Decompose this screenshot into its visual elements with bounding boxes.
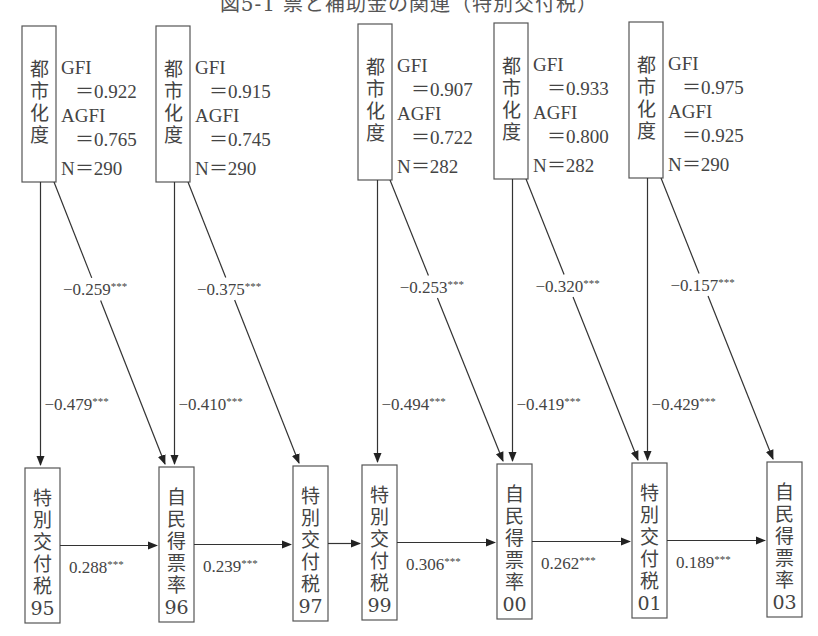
svg-text:＝0.915: ＝0.915: [209, 81, 271, 102]
node-label-char: 化: [637, 98, 656, 120]
node-label-char: 市: [366, 78, 385, 100]
svg-text:付: 付: [370, 550, 389, 572]
outcome-node-96: 自民得票率96: [159, 467, 194, 622]
svg-text:特: 特: [640, 482, 659, 504]
node-label-char: 都: [366, 56, 385, 78]
node-label-char: 度: [502, 121, 521, 143]
svg-text:特: 特: [33, 487, 52, 509]
urbanization-node-4: 都市化度: [494, 23, 528, 179]
node-label-char: 化: [164, 102, 183, 124]
fit-indices-5: GFI＝0.975AGFI＝0.925N＝290: [668, 53, 744, 175]
node-label-char: 度: [164, 124, 183, 146]
node-label-char: 化: [30, 102, 49, 124]
svg-text:別: 別: [301, 507, 320, 529]
svg-text:＝0.933: ＝0.933: [547, 78, 609, 99]
svg-text:N＝290: N＝290: [61, 158, 122, 179]
node-label-char: 都: [30, 58, 49, 80]
svg-text:得: 得: [775, 525, 794, 547]
svg-text:得: 得: [505, 527, 524, 549]
svg-text:GFI: GFI: [533, 54, 564, 75]
svg-text:付: 付: [33, 553, 52, 575]
svg-text:＝0.922: ＝0.922: [75, 81, 137, 102]
diagonal-path-line: [526, 179, 564, 275]
horizontal-coefficient: 0.239***: [203, 557, 258, 576]
outcome-node-00: 自民得票率00: [497, 464, 532, 619]
node-label-char: 市: [164, 80, 183, 102]
svg-text:別: 別: [33, 509, 52, 531]
svg-text:AGFI: AGFI: [397, 103, 441, 124]
svg-text:＝0.800: ＝0.800: [547, 126, 609, 147]
outcome-node-01: 特別交付税01: [632, 463, 667, 618]
diagonal-path-arrow: [101, 300, 165, 464]
svg-text:票: 票: [775, 547, 794, 569]
diagonal-path-arrow: [708, 296, 773, 459]
fit-indices-3: GFI＝0.907AGFI＝0.722N＝282: [397, 55, 473, 177]
svg-text:＝0.765: ＝0.765: [75, 129, 137, 150]
svg-text:税: 税: [33, 575, 52, 597]
svg-text:GFI: GFI: [668, 53, 699, 74]
vertical-coefficient: −0.479***: [45, 395, 109, 414]
outcome-year: 99: [367, 594, 391, 616]
node-label-char: 化: [366, 100, 385, 122]
svg-text:率: 率: [775, 569, 794, 591]
svg-text:付: 付: [301, 551, 320, 573]
svg-text:税: 税: [640, 570, 659, 592]
svg-text:交: 交: [301, 529, 320, 551]
outcome-year: 95: [30, 597, 54, 619]
fit-indices-2: GFI＝0.915AGFI＝0.745N＝290: [195, 57, 271, 179]
vertical-coefficient: −0.410***: [179, 395, 243, 414]
urbanization-node-5: 都市化度: [629, 22, 663, 178]
fit-indices-1: GFI＝0.922AGFI＝0.765N＝290: [61, 57, 137, 179]
outcome-node-95: 特別交付税95: [25, 468, 60, 623]
horizontal-coefficient: 0.262***: [541, 554, 596, 573]
diagonal-path-line: [188, 182, 226, 278]
svg-text:票: 票: [505, 549, 524, 571]
svg-text:GFI: GFI: [195, 57, 226, 78]
node-label-char: 市: [637, 76, 656, 98]
svg-text:AGFI: AGFI: [195, 105, 239, 126]
diagonal-path-arrow: [437, 298, 503, 461]
outcome-year: 97: [298, 595, 322, 617]
urbanization-node-1: 都市化度: [22, 26, 56, 182]
svg-text:＝0.745: ＝0.745: [209, 129, 271, 150]
urbanization-node-2: 都市化度: [156, 26, 190, 182]
diagonal-coefficient: −0.253***: [400, 278, 464, 297]
outcome-node-03: 自民得票率03: [767, 462, 802, 617]
svg-text:自: 自: [775, 481, 794, 503]
outcome-year: 00: [502, 593, 526, 615]
svg-text:別: 別: [640, 504, 659, 526]
node-label-char: 市: [30, 80, 49, 102]
svg-text:N＝282: N＝282: [397, 156, 458, 177]
svg-text:＝0.722: ＝0.722: [411, 127, 473, 148]
svg-text:＝0.975: ＝0.975: [682, 77, 744, 98]
diagonal-coefficient: −0.157***: [670, 276, 734, 295]
urbanization-node-3: 都市化度: [358, 24, 392, 180]
outcome-node-99: 特別交付税99: [362, 465, 397, 620]
vertical-coefficient: −0.494***: [382, 395, 446, 414]
node-label-char: 都: [502, 55, 521, 77]
node-label-char: 化: [502, 99, 521, 121]
svg-text:＝0.907: ＝0.907: [411, 79, 473, 100]
svg-text:民: 民: [167, 508, 186, 530]
svg-text:税: 税: [301, 573, 320, 595]
svg-text:特: 特: [301, 485, 320, 507]
node-label-char: 度: [366, 122, 385, 144]
svg-text:付: 付: [640, 548, 659, 570]
fit-indices-4: GFI＝0.933AGFI＝0.800N＝282: [533, 54, 609, 176]
outcome-year: 03: [772, 591, 796, 613]
svg-text:GFI: GFI: [61, 57, 92, 78]
diagonal-coefficient: −0.320***: [535, 277, 599, 296]
node-label-char: 度: [637, 120, 656, 142]
svg-text:民: 民: [775, 503, 794, 525]
outcome-node-97: 特別交付税97: [293, 466, 328, 621]
node-label-char: 都: [637, 54, 656, 76]
svg-text:交: 交: [640, 526, 659, 548]
diagonal-path-line: [390, 180, 428, 276]
svg-text:GFI: GFI: [397, 55, 428, 76]
horizontal-coefficient: 0.189***: [676, 553, 731, 572]
svg-text:N＝290: N＝290: [668, 154, 729, 175]
svg-text:自: 自: [167, 486, 186, 508]
horizontal-coefficient: 0.288***: [69, 558, 124, 577]
outcome-year: 01: [637, 592, 661, 614]
outcome-year: 96: [164, 596, 188, 618]
